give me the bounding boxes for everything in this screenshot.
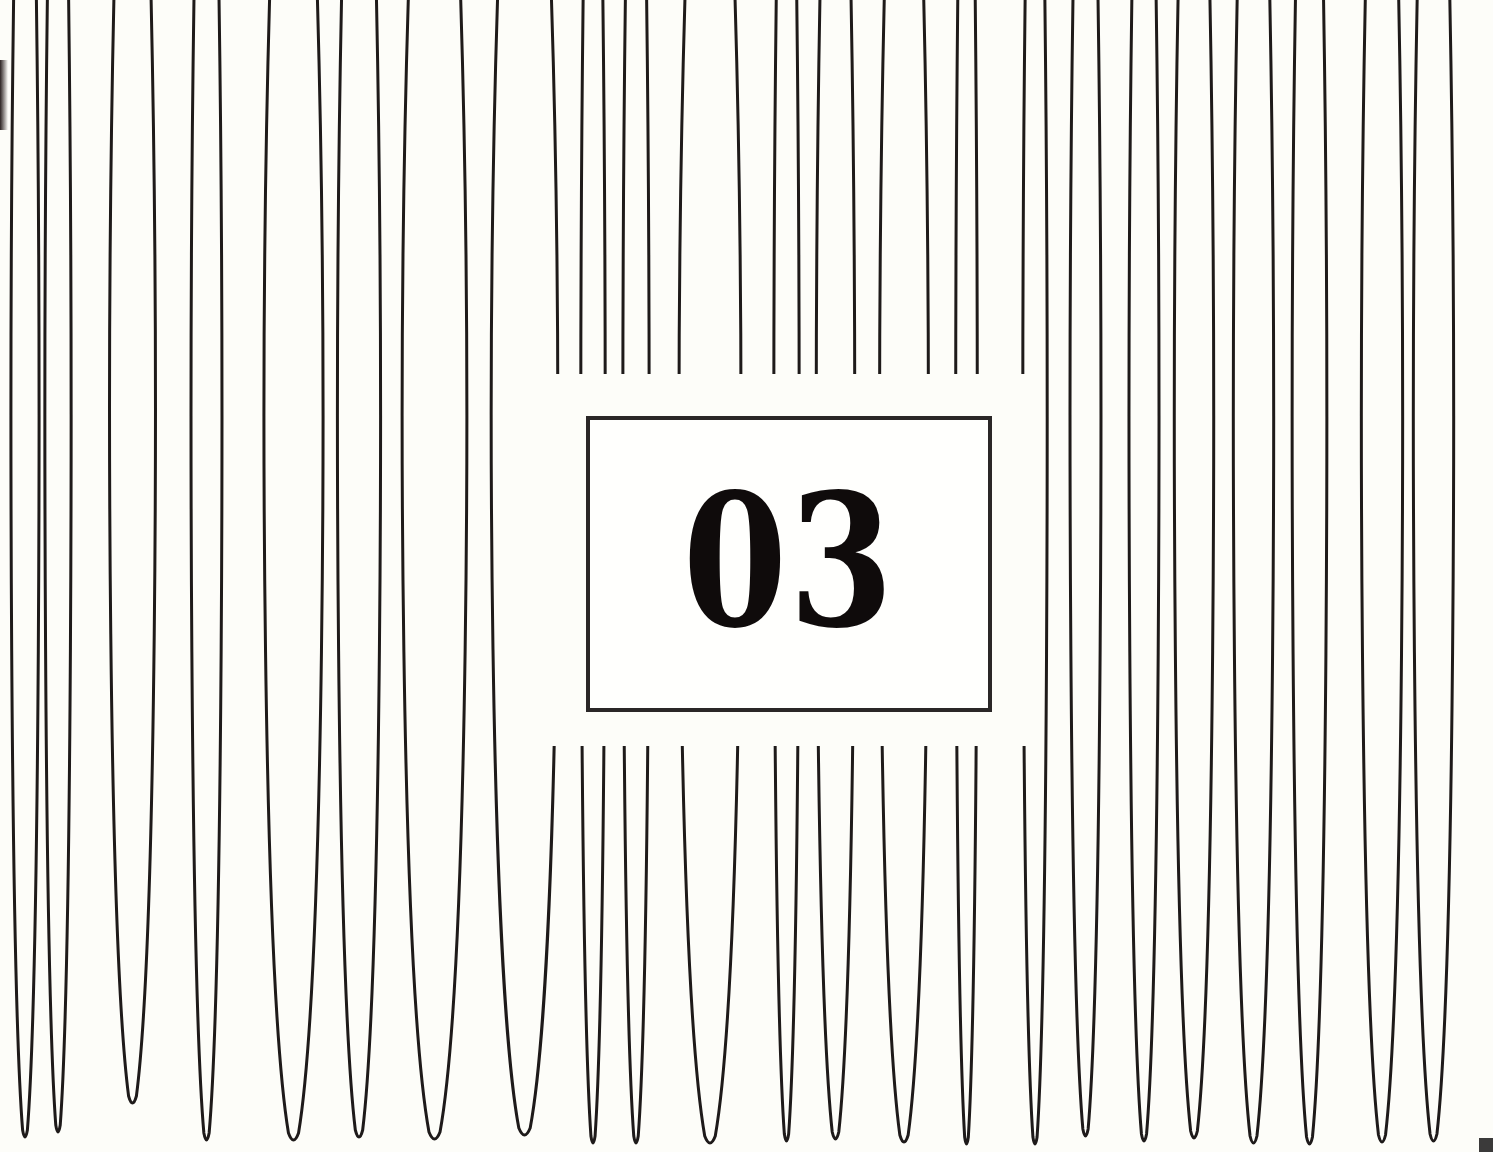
hairpin-loop (1174, 0, 1213, 1138)
hairpin-loop (191, 0, 222, 1140)
hairpin-loop (402, 0, 466, 1139)
hairpin-loop (1361, 0, 1402, 1142)
scan-corner-shadow (1479, 1138, 1493, 1152)
chapter-divider-graphic: 03 (0, 0, 1493, 1152)
chapter-number-box: 03 (586, 416, 992, 712)
hairpin-loop (1070, 0, 1101, 1136)
hairpin-loop (338, 0, 381, 1137)
hairpin-loop (1233, 0, 1273, 1143)
scan-edge-shadow (0, 60, 8, 130)
hairpin-loop (1129, 0, 1159, 1141)
hairpin-loop (11, 0, 39, 1137)
hairpin-loop (110, 0, 156, 1103)
hairpin-loop (1292, 0, 1327, 1144)
hairpin-loop (45, 0, 71, 1132)
hairpin-loop (1413, 0, 1453, 1141)
hairpin-loop (264, 0, 323, 1140)
chapter-number: 03 (683, 469, 896, 652)
